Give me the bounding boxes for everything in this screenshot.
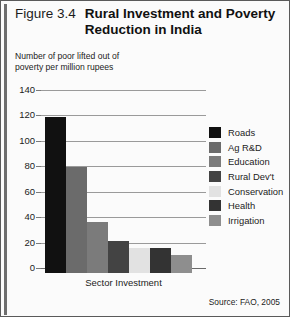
legend-item: Ag R&D [209,140,283,155]
legend-item: Rural Dev't [209,169,283,184]
legend-item-label: Rural Dev't [228,171,274,182]
y-tick-mark [36,115,41,116]
y-axis-caption-line-1: Number of poor lifted out of [15,51,119,62]
figure-header: Figure 3.4 Rural Investment and Poverty … [15,6,283,38]
y-tick-label: 120 [0,110,35,120]
bar-conservation [129,248,150,273]
y-tick-mark [36,243,41,244]
legend-item: Conservation [209,184,283,199]
legend-swatch-icon [209,186,221,197]
y-tick-mark [36,192,41,193]
bar-ag-r-d [66,167,87,273]
legend-item: Education [209,154,283,169]
figure-title-line-1: Rural Investment and Poverty [85,6,276,22]
plot-area: 140120100806040200 [41,89,206,274]
legend-item-label: Conservation [228,186,283,197]
bar-health [150,248,171,273]
legend-swatch-icon [209,200,221,211]
legend-swatch-icon [209,171,221,182]
legend-item-label: Roads [228,127,255,138]
y-tick-mark [36,217,41,218]
legend-swatch-icon [209,142,221,153]
y-tick-mark [36,141,41,142]
figure-container: Figure 3.4 Rural Investment and Poverty … [0,0,290,317]
y-tick-label: 80 [0,161,35,171]
y-tick-mark [36,90,41,91]
gridline [41,90,206,91]
legend-item: Roads [209,125,283,140]
y-tick-label: 100 [0,136,35,146]
figure-number: Figure 3.4 [15,6,76,22]
bar-education [87,222,108,273]
y-tick-label: 0 [0,263,35,273]
y-tick-label: 20 [0,238,35,248]
legend-item-label: Health [228,200,255,211]
y-axis-caption-line-2: poverty per million rupees [15,62,119,73]
legend-item: Health [209,198,283,213]
y-axis-caption: Number of poor lifted out of poverty per… [15,51,119,72]
figure-title-line-2: Reduction in India [85,22,276,38]
x-axis-label: Sector Investment [41,277,206,288]
bar-rural-dev-t [108,241,129,273]
bar-roads [45,117,66,273]
y-tick-label: 40 [0,212,35,222]
legend-item: Irrigation [209,213,283,228]
y-tick-label: 60 [0,187,35,197]
y-tick-label: 140 [0,85,35,95]
legend-swatch-icon [209,156,221,167]
legend-item-label: Irrigation [228,215,264,226]
legend-swatch-icon [209,215,221,226]
legend-item-label: Education [228,156,270,167]
legend-swatch-icon [209,127,221,138]
figure-title: Rural Investment and Poverty Reduction i… [85,6,276,38]
y-tick-mark [36,268,41,269]
chart-legend: RoadsAg R&DEducationRural Dev'tConservat… [209,125,283,228]
legend-item-label: Ag R&D [228,142,262,153]
bar-irrigation [171,255,192,273]
bar-series [45,95,197,273]
source-note: Source: FAO, 2005 [209,297,280,307]
y-tick-mark [36,166,41,167]
